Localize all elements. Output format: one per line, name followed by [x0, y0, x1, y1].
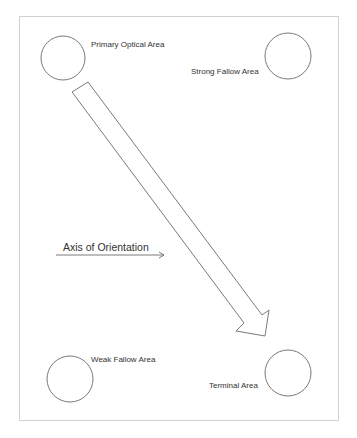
strong-fallow-area-label: Strong Fallow Area — [191, 67, 259, 77]
gutenberg-diagram — [0, 0, 357, 438]
terminal-area-label: Terminal Area — [209, 381, 258, 391]
primary-optical-area-label: Primary Optical Area — [91, 40, 164, 50]
axis-of-orientation-label: Axis of Orientation — [63, 241, 149, 253]
weak-fallow-area-label: Weak Fallow Area — [91, 355, 155, 365]
